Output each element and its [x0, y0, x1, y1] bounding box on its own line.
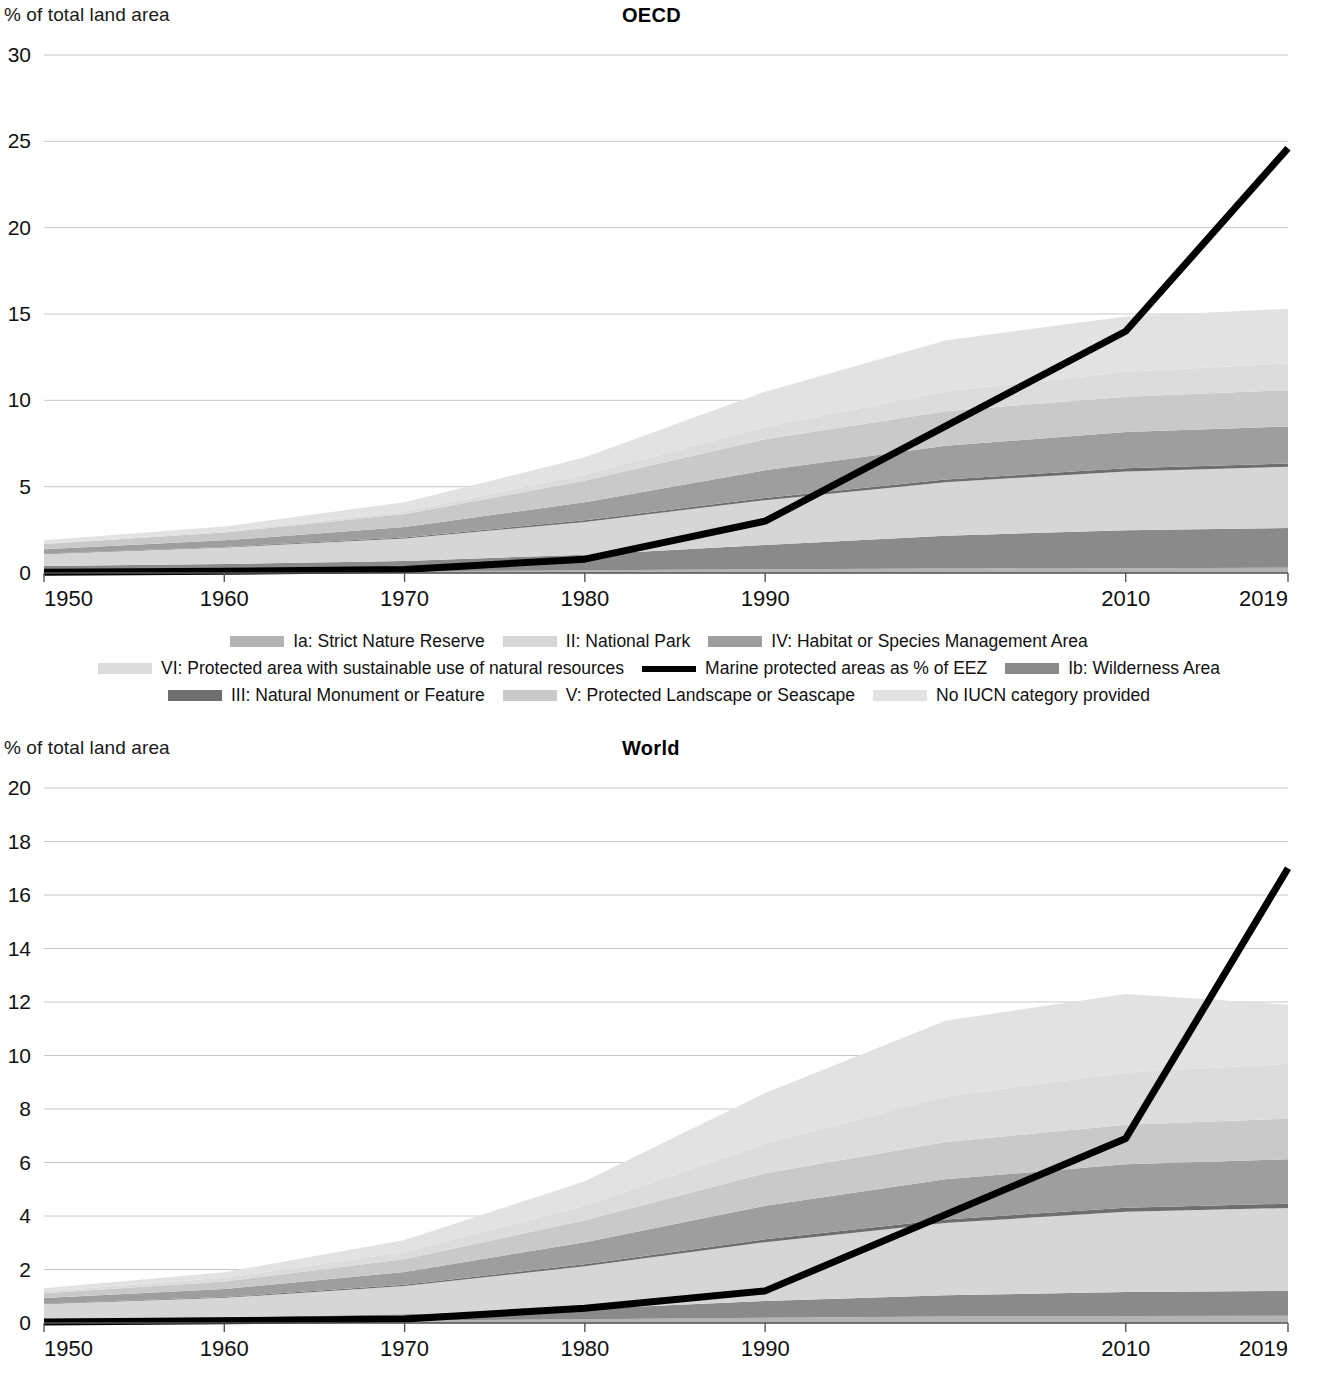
legend-item-vi[interactable]: VI: Protected area with sustainable use …	[98, 660, 624, 678]
legend-swatch-ia	[230, 636, 284, 647]
y-tick-label: 8	[19, 1097, 31, 1120]
y-tick-label: 0	[19, 561, 31, 584]
legend-label-ia: Ia: Strict Nature Reserve	[293, 633, 485, 651]
legend-label-ib: Ib: Wilderness Area	[1068, 660, 1220, 678]
y-tick-label: 5	[19, 475, 31, 498]
y-tick-label: 20	[8, 216, 31, 239]
y-tick-label: 15	[8, 302, 31, 325]
legend-item-iv[interactable]: IV: Habitat or Species Management Area	[708, 633, 1087, 651]
y-tick-label: 12	[8, 990, 31, 1013]
x-tick-label: 1950	[44, 586, 93, 611]
legend-swatch-noiucn	[873, 690, 927, 701]
legend-row-1: Ia: Strict Nature Reserve II: National P…	[0, 628, 1318, 655]
plot-area-oecd: 0510152025301950196019701980199020102019	[0, 0, 1318, 620]
legend-swatch-ii	[503, 636, 557, 647]
x-tick-label: 1990	[741, 1336, 790, 1361]
y-tick-label: 30	[8, 43, 31, 66]
legend-item-noiucn[interactable]: No IUCN category provided	[873, 687, 1150, 705]
legend-label-iii: III: Natural Monument or Feature	[231, 687, 485, 705]
legend-label-vi: VI: Protected area with sustainable use …	[161, 660, 624, 678]
legend-item-marine[interactable]: Marine protected areas as % of EEZ	[642, 660, 987, 678]
legend-row-2: VI: Protected area with sustainable use …	[0, 655, 1318, 682]
x-tick-label: 1980	[560, 1336, 609, 1361]
chart-panel-oecd: % of total land area OECD 05101520253019…	[0, 0, 1318, 620]
x-tick-label: 2019	[1239, 1336, 1288, 1361]
x-tick-label: 1990	[741, 586, 790, 611]
legend-label-marine: Marine protected areas as % of EEZ	[705, 660, 987, 678]
legend-item-v[interactable]: V: Protected Landscape or Seascape	[503, 687, 855, 705]
y-tick-label: 0	[19, 1311, 31, 1334]
legend-swatch-iv	[708, 636, 762, 647]
legend-label-iv: IV: Habitat or Species Management Area	[771, 633, 1087, 651]
legend-swatch-ib	[1005, 663, 1059, 674]
y-tick-label: 16	[8, 883, 31, 906]
legend-item-ii[interactable]: II: National Park	[503, 633, 691, 651]
legend-item-ia[interactable]: Ia: Strict Nature Reserve	[230, 633, 485, 651]
legend-label-noiucn: No IUCN category provided	[936, 687, 1150, 705]
x-tick-label: 2010	[1101, 586, 1150, 611]
y-tick-label: 18	[8, 830, 31, 853]
x-tick-label: 1960	[200, 1336, 249, 1361]
chart-panel-world: % of total land area World 0246810121416…	[0, 735, 1318, 1373]
x-tick-label: 1950	[44, 1336, 93, 1361]
legend-swatch-iii	[168, 690, 222, 701]
legend-row-3: III: Natural Monument or Feature V: Prot…	[0, 682, 1318, 709]
legend-swatch-vi	[98, 663, 152, 674]
legend-item-ib[interactable]: Ib: Wilderness Area	[1005, 660, 1220, 678]
legend-item-iii[interactable]: III: Natural Monument or Feature	[168, 687, 485, 705]
legend-swatch-v	[503, 690, 557, 701]
legend-label-v: V: Protected Landscape or Seascape	[566, 687, 855, 705]
y-tick-label: 20	[8, 776, 31, 799]
legend-swatch-marine	[642, 666, 696, 672]
y-tick-label: 10	[8, 388, 31, 411]
y-tick-label: 2	[19, 1258, 31, 1281]
x-tick-label: 1970	[380, 1336, 429, 1361]
chart-legend: Ia: Strict Nature Reserve II: National P…	[0, 628, 1318, 728]
legend-label-ii: II: National Park	[566, 633, 691, 651]
y-tick-label: 6	[19, 1151, 31, 1174]
x-tick-label: 1970	[380, 586, 429, 611]
x-tick-label: 1960	[200, 586, 249, 611]
y-tick-label: 10	[8, 1044, 31, 1067]
plot-area-world: 0246810121416182019501960197019801990201…	[0, 735, 1318, 1373]
x-tick-label: 2019	[1239, 586, 1288, 611]
x-tick-label: 2010	[1101, 1336, 1150, 1361]
y-tick-label: 4	[19, 1204, 31, 1227]
y-tick-label: 14	[8, 937, 32, 960]
y-tick-label: 25	[8, 129, 31, 152]
x-tick-label: 1980	[560, 586, 609, 611]
